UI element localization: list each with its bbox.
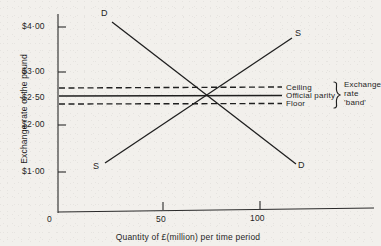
demand-curve-label-top: D [101,8,108,18]
y-tick-marks [58,27,66,172]
x-tick-label-100: 100 [250,213,265,223]
floor-label: Floor [286,99,305,108]
y-tick-label-1: $1·00 [22,166,45,176]
y-tick-label-4: $4·00 [22,21,45,31]
y-tick-label-2: $2·00 [22,119,45,129]
band-brace-line-3: 'band' [344,98,366,107]
x-tick-marks [163,201,260,210]
x-tick-label-50: 50 [156,214,166,224]
demand-curve-label-bottom: D [298,160,305,170]
ceiling-line [59,87,282,88]
supply-curve-label-bottom: S [93,161,99,171]
x-axis-title: Quantity of £(million) per time period [0,232,376,242]
floor-line [59,104,282,105]
demand-curve [112,22,296,164]
x-axis [58,208,374,212]
origin-tick-label: 0 [47,214,52,224]
official-parity-line [59,96,282,97]
y-tick-label-3: $3·00 [22,66,45,76]
band-brace-line-2: rate [344,89,359,98]
supply-curve-label-top: S [295,28,301,38]
y-tick-label-2-50: $2·50 [22,92,45,102]
band-brace-line-1: Exchange [344,80,381,89]
supply-curve [105,38,292,163]
